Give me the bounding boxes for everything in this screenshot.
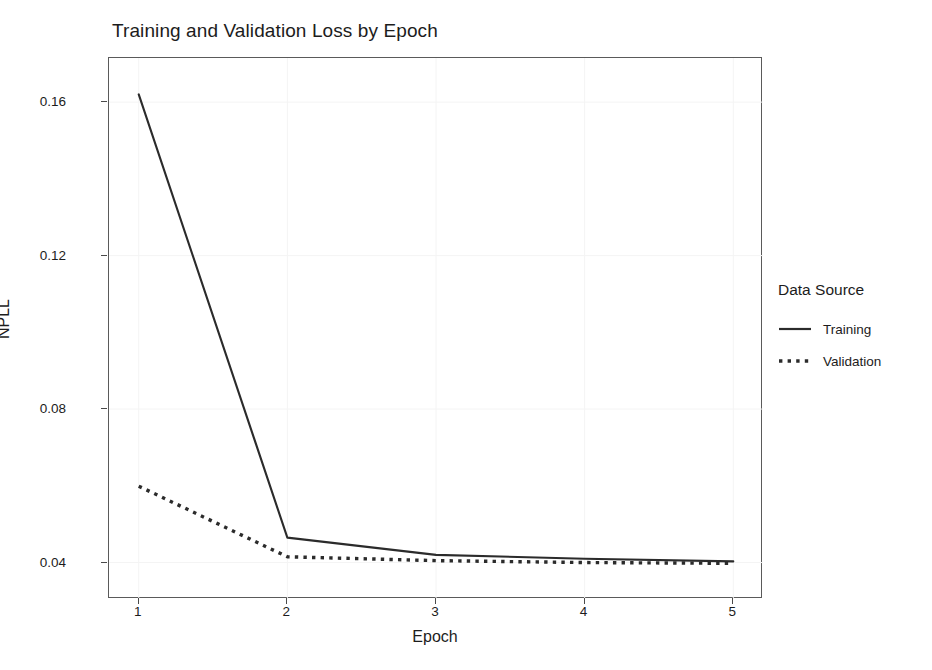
x-tick-label: 5 — [729, 604, 737, 619]
legend: Data Source TrainingValidation — [778, 281, 928, 379]
y-tick-label: 0.08 — [40, 401, 66, 416]
legend-item-training[interactable]: Training — [778, 315, 928, 343]
legend-entries: TrainingValidation — [778, 315, 928, 375]
plot-area — [108, 57, 762, 598]
legend-label: Validation — [823, 354, 881, 369]
legend-label: Training — [823, 322, 871, 337]
y-tick-mark — [101, 255, 107, 256]
chart-figure: Training and Validation Loss by Epoch 0.… — [0, 0, 932, 670]
y-tick-mark — [101, 562, 107, 563]
y-tick-mark — [101, 408, 107, 409]
x-tick-label: 2 — [283, 604, 291, 619]
plot-lines — [109, 58, 763, 599]
y-axis-tick-labels: 0.040.080.120.16 — [0, 0, 98, 670]
y-tick-label: 0.16 — [40, 94, 66, 109]
y-tick-label: 0.12 — [40, 247, 66, 262]
y-tick-label: 0.04 — [40, 554, 66, 569]
chart-title: Training and Validation Loss by Epoch — [112, 20, 438, 42]
x-tick-label: 3 — [431, 604, 439, 619]
legend-swatch-solid-icon — [778, 323, 812, 335]
x-axis-title: Epoch — [0, 628, 870, 646]
legend-item-validation[interactable]: Validation — [778, 347, 928, 375]
legend-title: Data Source — [778, 281, 928, 299]
y-tick-mark — [101, 101, 107, 102]
legend-swatch-dotted-icon — [778, 355, 812, 367]
x-tick-label: 4 — [580, 604, 588, 619]
x-tick-label: 1 — [134, 604, 142, 619]
y-axis-title: NPLL — [0, 299, 13, 339]
